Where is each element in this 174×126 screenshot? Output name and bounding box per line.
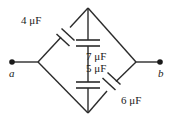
- terminal-label-a: a: [9, 68, 15, 79]
- capacitor-4uf-symbol: [57, 29, 75, 47]
- capacitor-4uf-label: 4 μF: [21, 15, 41, 26]
- capacitor-7uf-symbol: [76, 40, 100, 46]
- terminal-dot-a: [9, 59, 15, 65]
- capacitor-6uf-label: 6 μF: [121, 95, 141, 106]
- terminal-dot-b: [157, 59, 163, 65]
- wire-left-to-c4: [38, 37, 61, 62]
- terminal-label-b: b: [158, 68, 164, 79]
- capacitor-5uf-label: 5 μF: [86, 63, 106, 74]
- capacitor-circuit-figure: 4 μF 7 μF 5 μF 6 μF a b: [0, 0, 174, 126]
- wire-c4-to-top: [70, 8, 88, 28]
- capacitor-5uf-symbol: [76, 82, 100, 88]
- capacitor-7uf-label: 7 μF: [86, 51, 106, 62]
- capacitor-6uf-symbol: [103, 73, 121, 91]
- wire-bottom-to-c6: [88, 91, 107, 113]
- wire-c6-to-right: [116, 62, 136, 82]
